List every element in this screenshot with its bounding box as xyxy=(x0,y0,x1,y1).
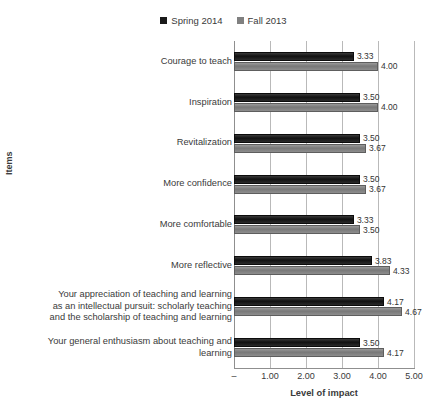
category-label: Revitalization xyxy=(14,137,232,149)
x-axis-ticks: –1.002.003.004.005.00 xyxy=(234,371,414,385)
category-label-column: Courage to teachInspirationRevitalizatio… xyxy=(10,41,232,368)
category-label-line: Your general enthusiasm about teaching a… xyxy=(14,336,232,348)
bar-value-label: 3.83 xyxy=(372,256,392,266)
bar-fall-2013[interactable] xyxy=(234,144,366,153)
bar-group: 4.174.67 xyxy=(234,286,414,327)
category-label: Your general enthusiasm about teaching a… xyxy=(14,336,232,359)
bar-value-label: 4.33 xyxy=(390,266,410,276)
bar-wrapper: 4.33 xyxy=(234,266,414,275)
bar-wrapper: 3.33 xyxy=(234,52,414,61)
bar-spring-2014[interactable] xyxy=(234,93,360,102)
bar-wrapper: 4.00 xyxy=(234,62,414,71)
category-label: More reflective xyxy=(14,260,232,272)
bar-group: 3.504.17 xyxy=(234,327,414,368)
bar-wrapper: 3.50 xyxy=(234,225,414,234)
x-tick-label: 4.00 xyxy=(369,371,387,381)
category-label-line: Courage to teach xyxy=(14,56,232,68)
bar-wrapper: 4.67 xyxy=(234,307,414,316)
legend-entry-spring-2014: Spring 2014 xyxy=(160,15,222,26)
bar-group: 3.503.67 xyxy=(234,123,414,164)
bar-spring-2014[interactable] xyxy=(234,297,384,306)
category-label-line: More confidence xyxy=(14,178,232,190)
bar-spring-2014[interactable] xyxy=(234,338,360,347)
bar-wrapper: 3.83 xyxy=(234,256,414,265)
x-tick-label: 2.00 xyxy=(297,371,315,381)
x-axis-title: Level of impact xyxy=(234,388,414,398)
bar-value-label: 3.67 xyxy=(366,184,386,194)
gridline xyxy=(414,41,415,368)
chart-legend: Spring 2014 Fall 2013 xyxy=(0,11,447,29)
bar-wrapper: 3.67 xyxy=(234,144,414,153)
bar-wrapper: 4.17 xyxy=(234,297,414,306)
legend-label-spring-2014: Spring 2014 xyxy=(171,15,222,26)
bar-fall-2013[interactable] xyxy=(234,266,390,275)
category-label-line: as an intellectual pursuit: scholarly te… xyxy=(14,301,232,313)
category-label-line: Revitalization xyxy=(14,137,232,149)
bar-group: 3.334.00 xyxy=(234,41,414,82)
bar-spring-2014[interactable] xyxy=(234,175,360,184)
bar-value-label: 3.33 xyxy=(354,215,374,225)
bar-spring-2014[interactable] xyxy=(234,215,354,224)
x-tick-label: 5.00 xyxy=(405,371,423,381)
bar-fall-2013[interactable] xyxy=(234,348,384,357)
x-tick-label: 3.00 xyxy=(333,371,351,381)
x-tick-label: 1.00 xyxy=(261,371,279,381)
x-tick-label: – xyxy=(231,371,236,381)
bar-wrapper: 4.17 xyxy=(234,348,414,357)
category-label: Courage to teach xyxy=(14,56,232,68)
bar-wrapper: 4.00 xyxy=(234,103,414,112)
bar-wrapper: 3.50 xyxy=(234,338,414,347)
category-label-line: More comfortable xyxy=(14,219,232,231)
legend-label-fall-2013: Fall 2013 xyxy=(248,15,287,26)
bar-fall-2013[interactable] xyxy=(234,307,402,316)
bar-value-label: 3.50 xyxy=(360,133,380,143)
bar-value-label: 4.67 xyxy=(402,307,422,317)
category-label: Inspiration xyxy=(14,97,232,109)
category-label: Your appreciation of teaching and learni… xyxy=(14,289,232,324)
bar-wrapper: 3.50 xyxy=(234,175,414,184)
plot-area: 3.334.003.504.003.503.673.503.673.333.50… xyxy=(234,41,414,368)
bar-value-label: 3.50 xyxy=(360,338,380,348)
x-axis-line xyxy=(234,368,415,369)
bar-spring-2014[interactable] xyxy=(234,52,354,61)
bar-group: 3.333.50 xyxy=(234,205,414,246)
category-label: More comfortable xyxy=(14,219,232,231)
bar-wrapper: 3.33 xyxy=(234,215,414,224)
category-label-line: Inspiration xyxy=(14,97,232,109)
bar-chart: Spring 2014 Fall 2013 Items Courage to t… xyxy=(0,0,447,414)
bar-group: 3.503.67 xyxy=(234,164,414,205)
bar-wrapper: 3.50 xyxy=(234,93,414,102)
bar-fall-2013[interactable] xyxy=(234,185,366,194)
bar-spring-2014[interactable] xyxy=(234,134,360,143)
bar-value-label: 3.50 xyxy=(360,92,380,102)
bar-value-label: 3.50 xyxy=(360,225,380,235)
bar-wrapper: 3.67 xyxy=(234,185,414,194)
category-label-line: More reflective xyxy=(14,260,232,272)
legend-entry-fall-2013: Fall 2013 xyxy=(237,15,287,26)
bar-value-label: 4.00 xyxy=(378,61,398,71)
bar-group: 3.504.00 xyxy=(234,82,414,123)
bar-wrapper: 3.50 xyxy=(234,134,414,143)
category-label-line: learning xyxy=(14,348,232,360)
legend-swatch-spring-2014 xyxy=(160,17,167,24)
bar-fall-2013[interactable] xyxy=(234,62,378,71)
bar-value-label: 4.17 xyxy=(384,297,404,307)
bar-spring-2014[interactable] xyxy=(234,256,372,265)
bar-value-label: 4.17 xyxy=(384,348,404,358)
bar-fall-2013[interactable] xyxy=(234,225,360,234)
bar-value-label: 3.50 xyxy=(360,174,380,184)
bar-value-label: 3.33 xyxy=(354,51,374,61)
bar-value-label: 4.00 xyxy=(378,102,398,112)
bar-value-label: 3.67 xyxy=(366,143,386,153)
bar-group: 3.834.33 xyxy=(234,245,414,286)
category-label-line: and the scholarship of teaching and lear… xyxy=(14,312,232,324)
legend-swatch-fall-2013 xyxy=(237,17,244,24)
category-label: More confidence xyxy=(14,178,232,190)
bar-fall-2013[interactable] xyxy=(234,103,378,112)
category-label-line: Your appreciation of teaching and learni… xyxy=(14,289,232,301)
